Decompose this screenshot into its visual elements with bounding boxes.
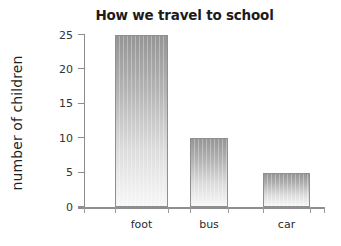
bar-car [263, 173, 310, 207]
y-axis-tick: 15 [78, 103, 84, 104]
x-axis-tick [228, 207, 229, 213]
x-axis-tick [168, 207, 169, 213]
x-axis-category-label-bus: bus [199, 218, 219, 231]
y-axis-label: number of children [9, 55, 25, 190]
y-axis-tick: 20 [78, 68, 84, 69]
y-axis-tick-label: 25 [59, 28, 73, 41]
y-axis-tick: 10 [78, 137, 84, 138]
y-axis-line [84, 34, 85, 207]
bar-foot [115, 35, 168, 207]
y-axis-label-container: number of children [0, 0, 34, 246]
x-axis-tick [115, 207, 116, 213]
plot-area: 0510152025 footbuscar [84, 35, 325, 207]
x-axis-category-label-foot: foot [131, 218, 153, 231]
x-axis-tick [310, 207, 311, 213]
y-axis-tick-label: 20 [59, 62, 73, 75]
y-axis-tick-label: 0 [66, 200, 73, 213]
x-axis-category-label-car: car [278, 218, 295, 231]
x-axis-tick [324, 207, 325, 213]
x-axis-tick [190, 207, 191, 213]
y-axis-tick: 25 [78, 34, 84, 35]
y-axis-tick-label: 5 [66, 166, 73, 179]
y-axis-tick: 5 [78, 172, 84, 173]
bar-bus [190, 138, 228, 207]
chart-title: How we travel to school [0, 7, 341, 23]
bar-chart: How we travel to school number of childr… [0, 0, 341, 246]
x-axis-tick [84, 207, 85, 213]
y-axis-tick-label: 15 [59, 97, 73, 110]
x-axis-tick [263, 207, 264, 213]
y-axis-tick-label: 10 [59, 131, 73, 144]
